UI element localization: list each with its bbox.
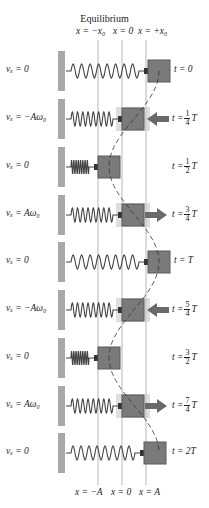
- time-label: t =54T: [172, 301, 197, 318]
- velocity-label: vₓ = 0: [6, 64, 29, 74]
- time-label: t =74T: [172, 397, 197, 414]
- mass-block: [122, 299, 144, 321]
- velocity-label: vₓ = −Aω₀: [6, 112, 46, 122]
- spring: [66, 64, 144, 78]
- spring: [66, 160, 94, 174]
- time-label: t =32T: [172, 349, 197, 366]
- wall: [58, 99, 65, 139]
- velocity-label: vₓ = 0: [6, 446, 29, 456]
- spring-connector: [94, 164, 98, 170]
- velocity-label: vₓ = −Aω₀: [6, 303, 46, 313]
- velocity-arrow-left-icon: [147, 112, 169, 126]
- mass-block: [144, 442, 166, 464]
- mass-block: [122, 204, 144, 226]
- spring-connector: [118, 403, 122, 409]
- time-label: t =12T: [172, 158, 197, 175]
- wall: [58, 51, 65, 91]
- wall: [58, 290, 65, 330]
- time-label: t = 0: [174, 64, 193, 74]
- velocity-label: vₓ = Aω₀: [6, 399, 40, 409]
- wall: [58, 242, 65, 282]
- wall: [58, 338, 65, 378]
- bottom-label-a: x = A: [139, 487, 160, 497]
- velocity-label: vₓ = 0: [6, 255, 29, 265]
- spring: [66, 303, 118, 317]
- spring-connector: [140, 450, 144, 456]
- velocity-label: vₓ = Aω₀: [6, 208, 40, 218]
- spring: [66, 208, 118, 222]
- spring-connector: [94, 355, 98, 361]
- wall: [58, 386, 65, 426]
- mass-block: [98, 156, 120, 178]
- wall: [58, 195, 65, 235]
- time-label: t =14T: [172, 110, 197, 127]
- time-label: t =34T: [172, 206, 197, 223]
- spring-mass-diagram: [0, 0, 209, 508]
- velocity-label: vₓ = 0: [6, 160, 29, 170]
- spring-connector: [144, 259, 148, 265]
- bottom-label-zero: x = 0: [111, 487, 131, 497]
- spring-connector: [118, 116, 122, 122]
- spring: [66, 351, 94, 365]
- time-label: t = 2T: [172, 446, 196, 456]
- bottom-label-neg-a: x = −A: [75, 487, 103, 497]
- wall: [58, 433, 65, 473]
- spring-connector: [144, 68, 148, 74]
- spring-connector: [118, 307, 122, 313]
- spring: [66, 399, 118, 413]
- time-label: t = T: [174, 255, 193, 265]
- velocity-arrow-left-icon: [147, 303, 169, 317]
- spring: [66, 255, 144, 269]
- velocity-label: vₓ = 0: [6, 351, 29, 361]
- mass-block: [122, 108, 144, 130]
- spring: [66, 112, 118, 126]
- spring-connector: [118, 212, 122, 218]
- wall: [58, 147, 65, 187]
- spring: [66, 446, 140, 460]
